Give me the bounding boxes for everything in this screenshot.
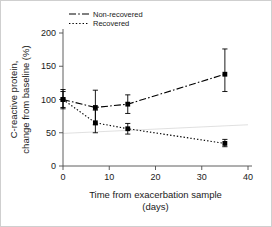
data-point-marker (93, 120, 98, 125)
x-tick-label: 30 (197, 172, 207, 182)
data-point-marker (125, 126, 130, 131)
chart-plot-area: 050100150200 010203040 Non-recovered Rec… (1, 1, 272, 227)
chart-legend: Non-recovered Recovered (69, 10, 143, 29)
data-point-marker (222, 141, 227, 146)
series-line-non-recovered (63, 74, 225, 107)
data-point-marker (125, 102, 130, 107)
y-tick-label: 50 (46, 128, 56, 138)
x-axis-title-line1: Time from exacerbation sample (89, 189, 222, 200)
data-point-marker (61, 97, 66, 102)
x-axis-title-line2: (days) (142, 201, 168, 212)
y-axis-title-line1: C-reactive protein, (8, 61, 19, 139)
x-axis-tick-labels: 010203040 (60, 172, 253, 182)
data-point-marker (222, 72, 227, 77)
x-tick-label: 10 (104, 172, 114, 182)
chart-figure: 050100150200 010203040 Non-recovered Rec… (0, 0, 272, 227)
x-tick-label: 0 (60, 172, 65, 182)
data-point-marker (93, 105, 98, 110)
x-axis-ticks (63, 166, 248, 170)
x-tick-label: 20 (150, 172, 160, 182)
series-line-recovered (63, 100, 225, 144)
y-tick-label: 100 (41, 95, 56, 105)
error-bar (222, 49, 227, 92)
y-tick-label: 150 (41, 61, 56, 71)
x-tick-label: 40 (243, 172, 253, 182)
y-axis-tick-labels: 050100150200 (41, 28, 56, 171)
legend-label-non-recovered: Non-recovered (93, 10, 143, 19)
y-tick-label: 200 (41, 28, 56, 38)
y-axis-title-line2: change from baseline (%) (20, 45, 31, 153)
y-tick-label: 0 (51, 161, 56, 171)
legend-label-recovered: Recovered (93, 19, 129, 28)
reference-trend-line (63, 125, 248, 134)
